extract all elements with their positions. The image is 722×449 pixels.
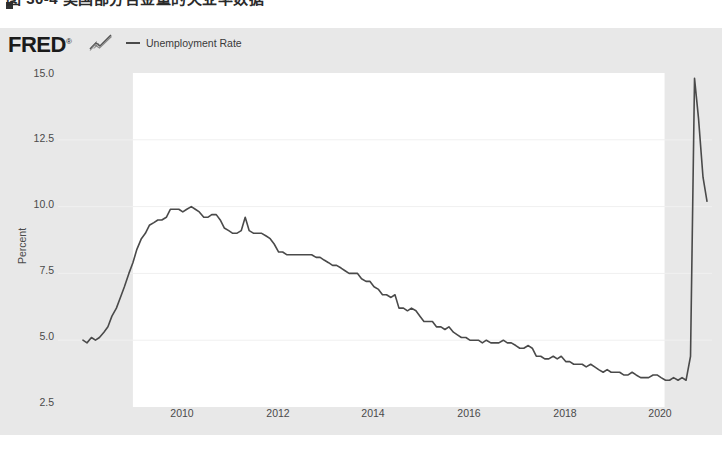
x-tick-label: 2020 <box>630 407 690 419</box>
y-tick-label: 10.0 <box>8 198 54 210</box>
fred-swoosh-icon <box>88 34 114 51</box>
x-axis-tick-labels: 2010 2012 2014 2016 2018 2020 <box>0 407 722 433</box>
y-tick-label: 7.5 <box>8 264 54 276</box>
legend-line-icon <box>126 42 140 44</box>
y-tick-label: 12.5 <box>8 132 54 144</box>
chart-gridlines <box>58 140 712 340</box>
x-tick-label: 2012 <box>248 407 308 419</box>
x-tick-label: 2016 <box>439 407 499 419</box>
chart-plot-area[interactable] <box>58 73 712 407</box>
fred-chart-header: FRED® Unemployment Rate <box>0 28 722 56</box>
registered-mark-icon: ® <box>66 37 71 46</box>
caption-text: 图 30-4 美国部分含金量的失业率数据 <box>6 0 264 8</box>
unemployment-rate-line-chart <box>58 73 712 407</box>
page-caption-strip: 图 30-4 美国部分含金量的失业率数据 <box>0 0 722 16</box>
y-tick-label: 15.0 <box>8 67 54 79</box>
series-line-unemployment-rate <box>83 78 707 380</box>
x-tick-label: 2014 <box>343 407 403 419</box>
legend-item-label: Unemployment Rate <box>146 37 242 49</box>
y-axis-tick-labels: 15.0 12.5 10.0 7.5 5.0 2.5 <box>0 28 54 435</box>
chart-legend[interactable]: Unemployment Rate <box>126 36 242 50</box>
fred-chart-card: FRED® Unemployment Rate Percent 15.0 12.… <box>0 28 722 435</box>
x-tick-label: 2018 <box>535 407 595 419</box>
recession-band <box>58 73 133 407</box>
recession-band <box>665 73 712 407</box>
x-tick-label: 2010 <box>152 407 212 419</box>
y-tick-label: 5.0 <box>8 330 54 342</box>
recession-shaded-bands <box>58 73 712 407</box>
page-bottom-filler <box>0 435 722 449</box>
